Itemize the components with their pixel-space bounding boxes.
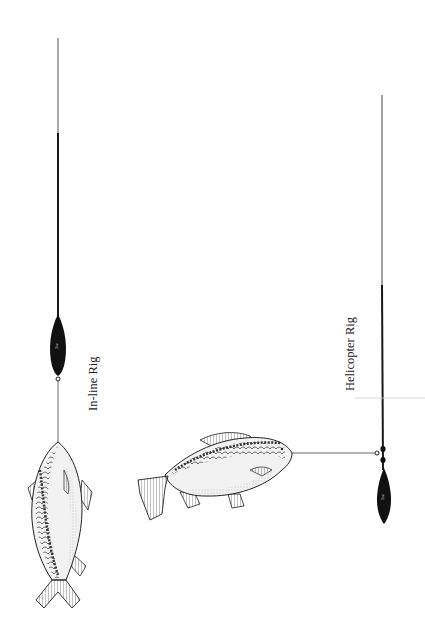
heli-bead-top-icon xyxy=(380,446,385,452)
rig-diagram: 2oz 2oz xyxy=(0,0,425,638)
heli-swivel-icon xyxy=(375,451,379,455)
helicopter-rig: 2oz xyxy=(138,95,425,524)
svg-text:2oz: 2oz xyxy=(54,343,59,349)
heli-carp xyxy=(138,433,292,520)
helicopter-rig-label: Helicopter Rig xyxy=(343,317,358,391)
inline-carp xyxy=(28,442,92,608)
svg-text:2oz: 2oz xyxy=(380,494,385,500)
heli-bead-bottom-icon xyxy=(380,457,385,463)
heli-main-line xyxy=(382,285,383,470)
inline-rig-label: In-line Rig xyxy=(86,356,101,411)
inline-rig: 2oz xyxy=(28,38,92,608)
inline-swivel-icon xyxy=(56,377,60,381)
